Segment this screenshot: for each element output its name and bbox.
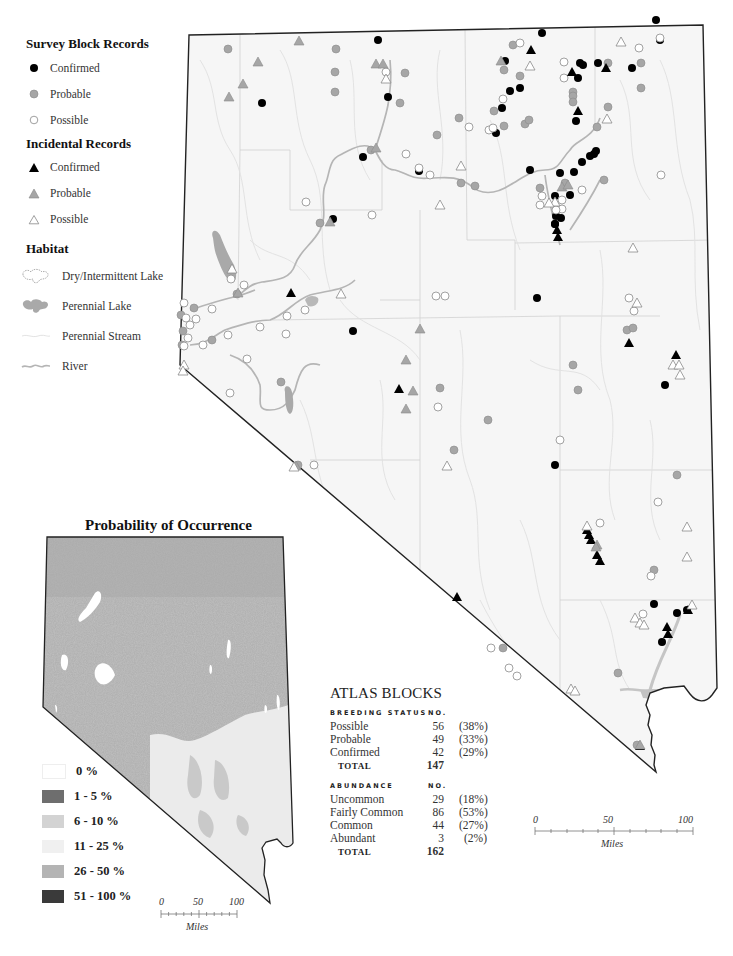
scale-tick-0: 0	[533, 814, 538, 825]
row-label: Possible	[330, 720, 368, 732]
prob-legend-2: 6 - 10 %	[42, 809, 131, 834]
scale-tick-100: 100	[229, 896, 244, 907]
table-total-row: TOTAL 147	[330, 759, 530, 773]
scale-unit: Miles	[601, 838, 623, 849]
row-label: Common	[330, 819, 373, 831]
row-label: Abundant	[330, 832, 375, 844]
row-percent: (27%)	[459, 819, 488, 831]
row-count: 3	[430, 832, 444, 844]
table-row: Possible 56 (38%)	[330, 720, 530, 733]
atlas-blocks-title: ATLAS BLOCKS	[330, 685, 530, 702]
prob-legend-3: 11 - 25 %	[42, 834, 131, 859]
table-row: Uncommon 29 (18%)	[330, 793, 530, 806]
legend-label: 6 - 10 %	[74, 814, 119, 829]
row-percent: (18%)	[459, 793, 488, 805]
row-count: 49	[430, 733, 444, 745]
prob-legend-0: 0 %	[42, 759, 131, 784]
main-map-scale-bar: 0 50 100 Miles	[530, 814, 700, 854]
prob-legend-4: 26 - 50 %	[42, 859, 131, 884]
atlas-blocks-table: ATLAS BLOCKS BREEDING STATUS NO. Possibl…	[330, 685, 530, 859]
swatch-icon	[42, 840, 64, 853]
column-header: ABUNDANCE	[330, 782, 394, 790]
breeding-status-header: BREEDING STATUS NO.	[330, 709, 530, 720]
row-count: 44	[430, 819, 444, 831]
table-total-row: TOTAL 162	[330, 845, 530, 859]
row-percent: (53%)	[459, 806, 488, 818]
abundance-header: ABUNDANCE NO.	[330, 782, 530, 793]
scale-tick-0: 0	[159, 896, 164, 907]
total-value: 147	[426, 759, 444, 771]
probability-legend: 0 % 1 - 5 % 6 - 10 % 11 - 25 % 26 - 50 %…	[42, 759, 131, 909]
row-percent: (2%)	[464, 832, 487, 844]
row-label: Uncommon	[330, 793, 384, 805]
column-header: NO.	[428, 709, 447, 717]
total-label: TOTAL	[338, 761, 371, 771]
total-value: 162	[426, 845, 444, 857]
row-label: Probable	[330, 733, 371, 745]
row-percent: (33%)	[459, 733, 488, 745]
probability-scale-bar: 0 50 100 Miles	[157, 896, 247, 936]
row-percent: (29%)	[459, 746, 488, 758]
prob-legend-5: 51 - 100 %	[42, 884, 131, 909]
scale-unit: Miles	[186, 921, 208, 932]
row-label: Fairly Common	[330, 806, 403, 818]
legend-label: 0 %	[76, 764, 98, 779]
prob-legend-1: 1 - 5 %	[42, 784, 131, 809]
column-header: BREEDING STATUS	[330, 709, 427, 717]
swatch-icon	[42, 815, 64, 828]
scale-bar-icon	[160, 909, 240, 919]
scale-tick-100: 100	[678, 814, 693, 825]
legend-label: 11 - 25 %	[74, 839, 124, 854]
scale-tick-50: 50	[193, 896, 203, 907]
swatch-icon	[42, 865, 64, 878]
table-row: Fairly Common 86 (53%)	[330, 806, 530, 819]
swatch-icon	[42, 890, 64, 903]
legend-label: 26 - 50 %	[74, 864, 125, 879]
row-label: Confirmed	[330, 746, 380, 758]
row-count: 42	[430, 746, 444, 758]
table-row: Common 44 (27%)	[330, 819, 530, 832]
total-label: TOTAL	[338, 847, 371, 857]
legend-label: 51 - 100 %	[74, 889, 131, 904]
scale-tick-50: 50	[603, 814, 613, 825]
row-percent: (38%)	[459, 720, 488, 732]
row-count: 29	[430, 793, 444, 805]
legend-label: 1 - 5 %	[74, 789, 113, 804]
swatch-icon	[42, 764, 66, 779]
row-count: 56	[430, 720, 444, 732]
column-header: NO.	[428, 782, 447, 790]
swatch-icon	[42, 790, 64, 803]
scale-bar-icon	[534, 826, 696, 836]
table-row: Confirmed 42 (29%)	[330, 746, 530, 759]
row-count: 86	[430, 806, 444, 818]
table-row: Probable 49 (33%)	[330, 733, 530, 746]
table-row: Abundant 3 (2%)	[330, 832, 530, 845]
